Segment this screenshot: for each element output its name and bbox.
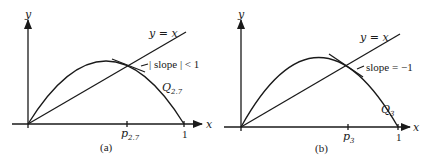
tangent-annotation: | slope | < 1: [149, 58, 199, 70]
y-axis-label: y: [237, 8, 245, 21]
parabola-curve: [28, 61, 184, 124]
x-axis-label: x: [206, 118, 213, 131]
fixed-point-label: p2.7: [121, 127, 140, 142]
y-axis-label: y: [24, 8, 32, 21]
figure: y x 1 y = x | slope | < 1 Q2.7 p2.7 (a) …: [0, 0, 432, 165]
annotation-leader: [141, 64, 148, 66]
annotation-leader: [357, 66, 364, 69]
x-tick-one: 1: [396, 131, 402, 143]
diagonal-line: [241, 34, 400, 127]
x-tick-one: 1: [182, 128, 188, 140]
fixed-point-label: p3: [343, 130, 355, 145]
tangent-annotation: slope = −1: [366, 61, 413, 73]
panel-b: y x 1 y = x slope = −1 Q3 p3 (b): [224, 8, 420, 155]
curve-label: Q3: [381, 103, 395, 118]
tangent-line: [112, 59, 145, 72]
curve-label: Q2.7: [162, 81, 183, 96]
tangent-line: [329, 54, 363, 77]
diagonal-label: y = x: [148, 27, 178, 40]
diagonal-label: y = x: [359, 31, 389, 44]
panel-a: y x 1 y = x | slope | < 1 Q2.7 p2.7 (a): [12, 8, 213, 154]
diagonal-line: [28, 32, 186, 124]
panel-caption: (b): [315, 142, 328, 155]
panel-caption: (a): [100, 141, 113, 154]
x-axis-label: x: [413, 121, 420, 134]
